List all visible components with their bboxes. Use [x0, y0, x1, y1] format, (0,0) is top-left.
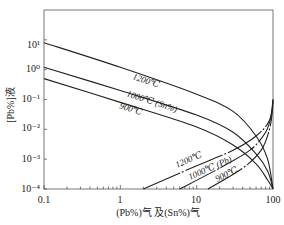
y-tick-1e1: 10¹ [27, 39, 40, 50]
x-tick-10: 10 [191, 194, 201, 205]
y-tick-1e0: 10⁰ [26, 63, 40, 74]
x-axis-title: (Pb%)气 及(Sn%)气 [116, 206, 200, 219]
curve-sn-0 [44, 43, 273, 189]
x-tick-1: 1 [118, 194, 123, 205]
y-axis-title: [Pb%]液 [4, 87, 16, 123]
chart: 0.1 1 10 100 10⁻⁴ 10⁻³ 10⁻² 10⁻¹ 10⁰ 10¹… [0, 0, 284, 225]
x-axis-ticks [44, 185, 270, 189]
y-tick-1e-2: 10⁻² [22, 122, 40, 133]
label-sn-1200: 1200℃ [131, 71, 162, 89]
x-tick-100: 100 [266, 194, 281, 205]
y-axis-ticks [44, 40, 47, 189]
curve-pb-3 [143, 100, 273, 190]
y-tick-labels: 10⁻⁴ 10⁻³ 10⁻² 10⁻¹ 10⁰ 10¹ [21, 39, 40, 194]
curves [44, 43, 273, 189]
x-tick-0.1: 0.1 [38, 194, 51, 205]
x-tick-labels: 0.1 1 10 100 [38, 194, 281, 205]
y-tick-1e-4: 10⁻⁴ [21, 183, 40, 194]
label-sn-900: 900℃ [118, 100, 144, 117]
y-tick-1e-3: 10⁻³ [22, 153, 40, 164]
curve-sn-2 [44, 79, 273, 189]
y-tick-1e-1: 10⁻¹ [22, 93, 40, 104]
